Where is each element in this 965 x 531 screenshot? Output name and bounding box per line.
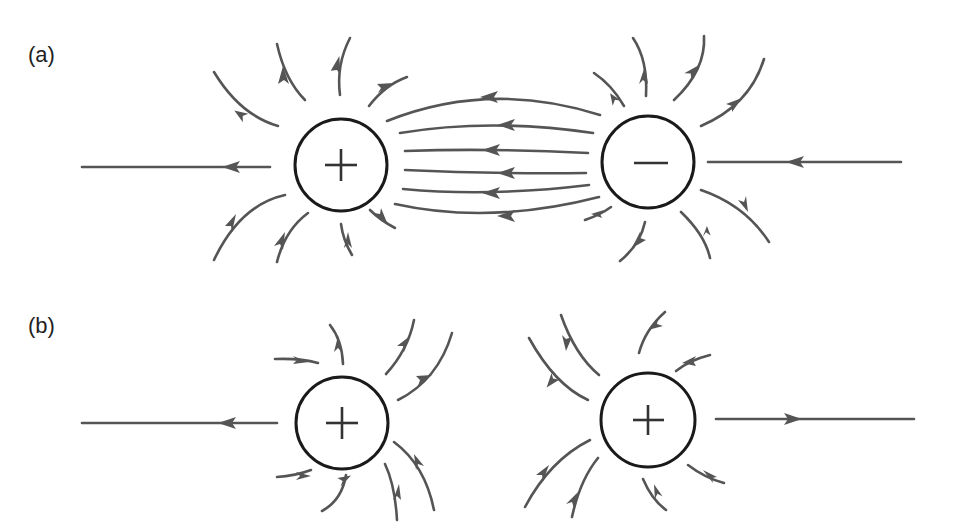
field-line-b-right bbox=[716, 413, 914, 425]
field-diagram bbox=[0, 0, 965, 531]
charge-b-left-positive bbox=[296, 377, 388, 469]
panel-a bbox=[82, 36, 901, 262]
field-line-b-left bbox=[82, 417, 277, 429]
charge-a-negative bbox=[602, 116, 694, 208]
panel-b bbox=[82, 312, 914, 520]
field-line-a-left bbox=[82, 161, 270, 173]
charge-b-right-positive bbox=[601, 373, 695, 467]
charge-a-positive bbox=[295, 119, 387, 211]
field-line-a-right bbox=[708, 156, 901, 168]
field-lines-a-between bbox=[387, 91, 600, 222]
